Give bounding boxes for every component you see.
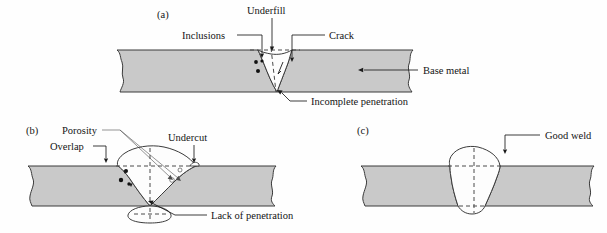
panel-label-b: (b): [26, 125, 39, 137]
label-base-metal: Base metal: [423, 65, 469, 76]
welding-defects-figure: (a) Underfill Inclusions Crack Base meta…: [0, 0, 607, 233]
leader-incomplete-penetration: [282, 93, 307, 101]
panel-a: (a) Underfill Inclusions Crack Base meta…: [117, 5, 469, 107]
inclusion-dot: [260, 59, 263, 62]
label-inclusions: Inclusions: [182, 30, 225, 41]
label-overlap: Overlap: [50, 141, 84, 152]
leader-good-weld: [505, 135, 540, 149]
porosity-pore: [178, 168, 182, 172]
label-incomplete-penetration: Incomplete penetration: [311, 96, 409, 107]
label-undercut: Undercut: [168, 132, 207, 143]
panel-label-a: (a): [157, 9, 169, 21]
base-metal-left-a: [117, 50, 277, 92]
label-porosity: Porosity: [62, 125, 98, 136]
panel-label-c: (c): [357, 125, 369, 137]
porosity-dot: [119, 178, 123, 182]
leader-overlap: [93, 146, 106, 158]
label-underfill: Underfill: [247, 5, 286, 16]
label-lack-of-penetration: Lack of penetration: [211, 210, 294, 221]
base-metal-right-a: [277, 50, 413, 92]
base-metal-right-c: [485, 166, 594, 206]
label-crack: Crack: [329, 30, 355, 41]
inclusion-dot: [254, 60, 258, 64]
arrowhead-overlap: [104, 158, 108, 163]
panel-c: (c) Good weld: [357, 125, 594, 214]
panel-b: (b) Porosity Overlap Undercut Lack of pe…: [26, 125, 294, 223]
inclusion-dot: [256, 69, 260, 73]
label-good-weld: Good weld: [545, 130, 592, 141]
arrowhead-good-weld: [503, 149, 507, 154]
base-metal-left-c: [361, 166, 458, 206]
